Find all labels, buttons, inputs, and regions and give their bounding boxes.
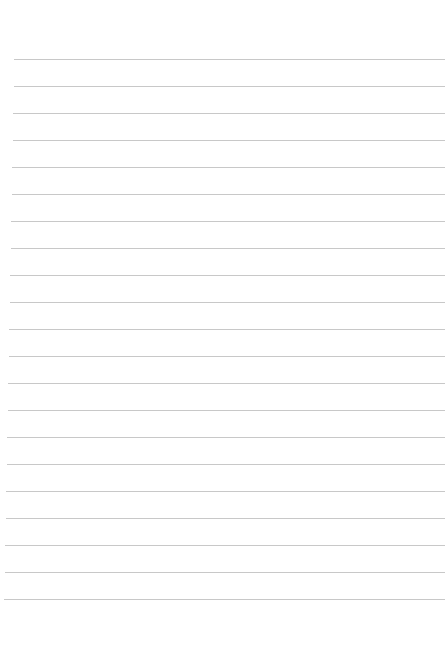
ruled-line <box>9 329 445 330</box>
ruled-line <box>10 302 445 303</box>
ruled-line <box>9 356 445 357</box>
ruled-line <box>4 599 445 600</box>
ruled-line <box>13 140 445 141</box>
ruled-line <box>6 518 445 519</box>
ruled-line <box>11 221 445 222</box>
ruled-line <box>5 572 445 573</box>
ruled-line <box>14 86 445 87</box>
ruled-line <box>7 437 445 438</box>
ruled-line <box>11 248 445 249</box>
ruled-line <box>5 545 445 546</box>
ruled-line <box>8 383 445 384</box>
ruled-line <box>12 194 445 195</box>
ruled-line <box>12 167 445 168</box>
ruled-line <box>8 410 445 411</box>
ruled-line <box>10 275 445 276</box>
ruled-paper-sheet <box>0 0 448 647</box>
ruled-line <box>14 59 445 60</box>
ruled-line <box>13 113 445 114</box>
ruled-line <box>7 464 445 465</box>
ruled-line <box>6 491 445 492</box>
